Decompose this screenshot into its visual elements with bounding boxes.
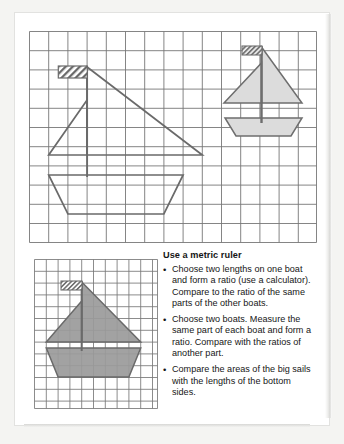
main-grid-svg	[29, 31, 317, 243]
list-item-text: Compare the areas of the big sails with …	[172, 364, 311, 397]
list-item-text: Choose two boats. Measure the same part …	[172, 314, 311, 358]
list-item-text: Choose two lengths on one boat and form …	[172, 264, 311, 308]
list-item: • Choose two boats. Measure the same par…	[163, 314, 311, 359]
page-spine-shadow	[325, 14, 332, 418]
bullet-icon: •	[163, 364, 166, 375]
bullet-icon: •	[163, 264, 166, 275]
small-grid-svg	[34, 259, 158, 409]
bottom-divider	[24, 424, 310, 427]
medium-boat-shaded	[46, 281, 140, 377]
list-item: • Compare the areas of the big sails wit…	[163, 364, 311, 398]
small-grid	[34, 259, 158, 409]
worksheet-page: Use a metric ruler • Choose two lengths …	[0, 0, 344, 444]
small-boat-shaded	[224, 46, 302, 136]
instructions-title: Use a metric ruler	[163, 250, 311, 261]
bullet-icon: •	[163, 314, 166, 325]
main-grid	[29, 31, 317, 243]
instructions-list: • Choose two lengths on one boat and for…	[163, 264, 311, 398]
list-item: • Choose two lengths on one boat and for…	[163, 264, 311, 309]
instructions-panel: Use a metric ruler • Choose two lengths …	[163, 250, 311, 403]
